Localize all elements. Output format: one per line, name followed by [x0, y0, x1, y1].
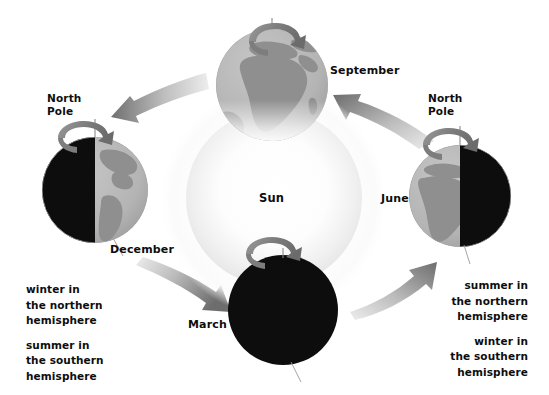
annotation-right: summer in the northern hemisphere winter…: [406, 278, 528, 380]
annotation-right-line-5: the southern: [406, 349, 528, 365]
north-pole-line-2: Pole: [47, 105, 97, 118]
rotation-arrow-march: [246, 237, 302, 269]
annotation-left-line-2: the northern: [26, 298, 146, 314]
sun-label: Sun: [259, 192, 284, 206]
annotation-left-block-1: winter in the northern hemisphere: [26, 282, 146, 329]
annotation-left-line-5: the southern: [26, 353, 146, 369]
north-pole-line-1: North: [428, 92, 478, 105]
month-label-december: December: [110, 243, 174, 257]
annotation-right-line-4: winter in: [406, 334, 528, 350]
annotation-right-block-2: winter in the southern hemisphere: [406, 334, 528, 381]
annotation-right-line-2: the northern: [406, 294, 528, 310]
rotation-arrow-december: [58, 121, 114, 153]
annotation-left-line-6: hemisphere: [26, 369, 146, 385]
annotation-left-line-1: winter in: [26, 282, 146, 298]
month-label-september: September: [330, 64, 400, 78]
annotation-right-line-1: summer in: [406, 278, 528, 294]
north-pole-label-december: North Pole: [47, 92, 97, 118]
annotation-right-block-1: summer in the northern hemisphere: [406, 278, 528, 325]
annotation-right-line-3: hemisphere: [406, 309, 528, 325]
annotation-left-block-2: summer in the southern hemisphere: [26, 338, 146, 385]
north-pole-line-1: North: [47, 92, 97, 105]
north-pole-line-2: Pole: [428, 105, 478, 118]
seasons-diagram: Sun September December March June North …: [0, 0, 549, 395]
north-pole-label-june: North Pole: [428, 92, 478, 118]
annotation-left: winter in the northern hemisphere summer…: [26, 282, 146, 384]
annotation-left-line-4: summer in: [26, 338, 146, 354]
rotation-arrow-september: [249, 23, 306, 56]
annotation-left-line-3: hemisphere: [26, 313, 146, 329]
month-label-march: March: [188, 318, 227, 332]
month-label-june: June: [381, 192, 409, 206]
annotation-right-line-6: hemisphere: [406, 365, 528, 381]
rotation-arrow-june: [423, 128, 479, 160]
